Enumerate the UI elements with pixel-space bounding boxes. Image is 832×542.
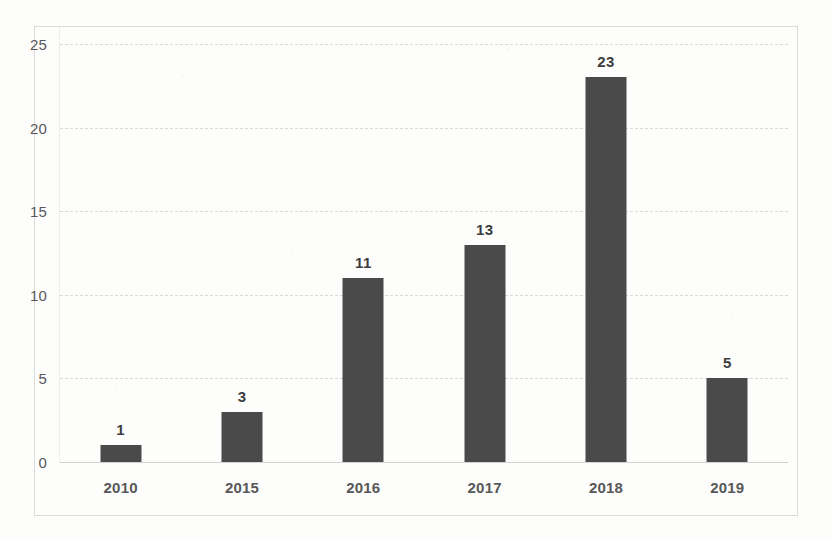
bar-chart: 0510152025 12010320151120161320172320185…: [0, 0, 832, 542]
bar-value-label: 5: [723, 354, 732, 371]
x-axis-tick-label: 2019: [710, 479, 744, 496]
y-axis-tick-label: 20: [30, 119, 47, 136]
bar[interactable]: [343, 278, 384, 462]
bar[interactable]: [707, 378, 748, 462]
gridline-0: [60, 462, 788, 463]
bar-group-2015: 32015: [181, 44, 302, 462]
bar-value-label: 11: [355, 254, 371, 271]
bar-group-2018: 232018: [545, 44, 666, 462]
bar-group-2010: 12010: [60, 44, 181, 462]
bar-group-2016: 112016: [303, 44, 424, 462]
y-axis-tick-label: 10: [30, 286, 47, 303]
x-axis-tick-label: 2010: [104, 479, 138, 496]
x-axis-tick-label: 2016: [346, 479, 380, 496]
bar[interactable]: [464, 245, 505, 462]
x-axis-tick-label: 2015: [225, 479, 259, 496]
y-axis-tick-label: 0: [38, 454, 47, 471]
bar-value-label: 13: [476, 221, 493, 238]
y-axis-tick-label: 25: [30, 36, 47, 53]
plot-area: 0510152025 12010320151120161320172320185…: [60, 44, 788, 462]
bar-group-2019: 52019: [667, 44, 788, 462]
bar[interactable]: [221, 412, 262, 462]
bars-layer: 120103201511201613201723201852019: [60, 44, 788, 462]
y-axis-tick-label: 5: [38, 370, 47, 387]
bar-value-label: 3: [238, 388, 247, 405]
bar[interactable]: [585, 77, 626, 462]
x-axis-tick-label: 2017: [468, 479, 502, 496]
bar-value-label: 23: [597, 53, 614, 70]
bar-group-2017: 132017: [424, 44, 545, 462]
x-axis-tick-label: 2018: [589, 479, 623, 496]
y-axis-tick-label: 15: [30, 203, 47, 220]
bar-value-label: 1: [116, 421, 125, 438]
bar[interactable]: [100, 445, 141, 462]
